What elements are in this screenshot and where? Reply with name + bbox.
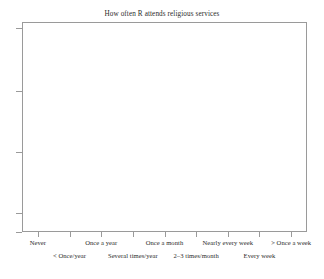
y-axis-tick <box>16 152 22 153</box>
x-axis-label: Once a year <box>85 239 117 247</box>
y-axis-tick <box>16 28 22 29</box>
y-axis-tick <box>16 91 22 92</box>
page-title: How often R attends religious services <box>0 10 324 19</box>
plot-region <box>23 23 306 231</box>
plot-frame <box>22 22 307 232</box>
x-axis-label: > Once a week <box>271 239 311 247</box>
x-axis-tick <box>70 232 71 237</box>
x-axis-label: Once a month <box>146 239 184 247</box>
x-axis-label: Never <box>30 239 46 247</box>
x-axis-tick <box>38 232 39 237</box>
x-axis-label: Every week <box>244 252 276 260</box>
x-axis-tick <box>101 232 102 237</box>
y-axis-tick <box>16 232 22 233</box>
x-axis-label: Several times/year <box>108 252 158 260</box>
x-axis-tick <box>259 232 260 237</box>
chart-screenshot: How often R attends religious services N… <box>0 0 324 279</box>
x-axis-label: < Once/year <box>53 252 86 260</box>
y-axis-tick <box>16 213 22 214</box>
x-axis-label: 2–3 times/month <box>174 252 219 260</box>
x-axis-tick <box>133 232 134 237</box>
x-axis-label: Nearly every week <box>202 239 253 247</box>
x-axis-tick <box>165 232 166 237</box>
x-axis-tick <box>228 232 229 237</box>
x-axis-tick <box>291 232 292 237</box>
x-axis-tick <box>196 232 197 237</box>
